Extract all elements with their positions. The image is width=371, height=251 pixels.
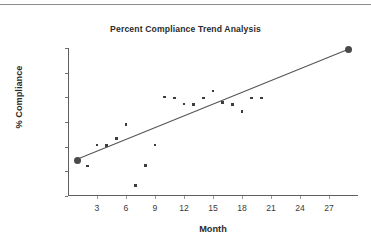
x-tick-mark — [126, 196, 127, 199]
x-tick-mark — [97, 196, 98, 199]
data-point — [221, 101, 224, 104]
plot-area: 30405060708090 369121518212427 — [68, 48, 358, 196]
data-point — [144, 164, 147, 167]
x-tick-label: 27 — [317, 203, 341, 213]
data-point — [202, 97, 205, 100]
data-point — [250, 97, 253, 100]
data-point — [115, 137, 118, 140]
x-tick-mark — [329, 196, 330, 199]
x-tick-label: 9 — [143, 203, 167, 213]
data-point — [86, 165, 89, 168]
data-point — [241, 110, 244, 113]
x-tick-mark — [155, 196, 156, 199]
x-tick-mark — [184, 196, 185, 199]
x-tick-label: 15 — [201, 203, 225, 213]
data-point — [105, 144, 108, 147]
x-tick-label: 24 — [288, 203, 312, 213]
x-tick-label: 18 — [230, 203, 254, 213]
data-point — [173, 97, 176, 100]
data-point — [212, 90, 215, 93]
data-point — [192, 103, 195, 106]
x-tick-mark — [213, 196, 214, 199]
chart-figure: Percent Compliance Trend Analysis % Comp… — [0, 0, 371, 251]
x-tick-label: 21 — [259, 203, 283, 213]
x-tick-mark — [300, 196, 301, 199]
x-tick-mark — [242, 196, 243, 199]
data-point — [154, 144, 157, 147]
header-divider — [0, 4, 371, 5]
data-point — [345, 46, 352, 53]
x-tick-label: 12 — [172, 203, 196, 213]
x-axis-label: Month — [68, 224, 358, 234]
data-point — [134, 184, 137, 187]
trend-line — [68, 48, 358, 196]
data-point — [231, 103, 234, 106]
data-point — [125, 123, 128, 126]
x-tick-label: 6 — [114, 203, 138, 213]
y-tick-mark — [65, 196, 68, 197]
data-point — [74, 157, 81, 164]
x-tick-mark — [271, 196, 272, 199]
x-tick-label: 3 — [85, 203, 109, 213]
y-axis-label: % Compliance — [14, 47, 24, 147]
chart-title: Percent Compliance Trend Analysis — [0, 24, 371, 34]
data-point — [163, 96, 166, 99]
data-point — [183, 103, 186, 106]
data-point — [96, 144, 99, 147]
data-point — [260, 97, 263, 100]
